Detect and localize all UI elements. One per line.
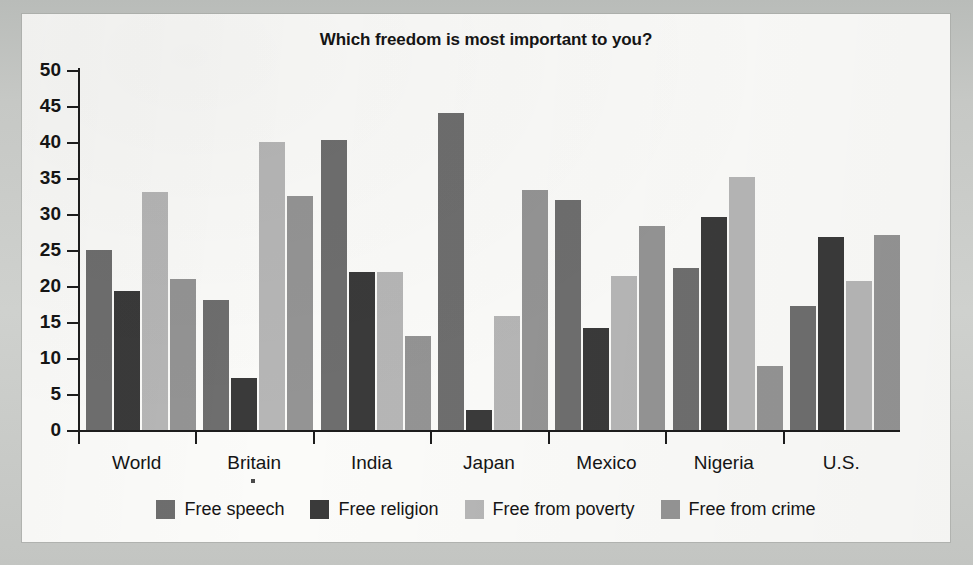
bar — [231, 378, 257, 430]
y-tick: 45 — [67, 106, 78, 108]
y-tick-label: 10 — [40, 347, 61, 369]
bar — [259, 142, 285, 430]
x-tick — [665, 431, 667, 444]
x-tick — [430, 431, 432, 444]
x-tick — [195, 431, 197, 444]
bar — [377, 272, 403, 430]
y-tick: 30 — [67, 214, 78, 216]
y-tick-label: 40 — [40, 131, 61, 153]
x-axis-label-britain: Britain — [227, 452, 281, 474]
bar — [522, 190, 548, 430]
x-axis-label-world: World — [112, 452, 161, 474]
y-tick: 10 — [67, 358, 78, 360]
x-axis-label-mexico: Mexico — [576, 452, 636, 474]
y-tick: 40 — [67, 142, 78, 144]
bar — [583, 328, 609, 430]
legend-label: Free from crime — [689, 499, 816, 520]
legend-swatch-icon — [156, 500, 175, 519]
scanned-page-background: Which freedom is most important to you? … — [0, 0, 973, 565]
x-tick — [313, 431, 315, 444]
bar-group — [438, 70, 548, 430]
y-tick-label: 5 — [50, 383, 61, 405]
bar — [874, 235, 900, 430]
scan-speck-artifact — [251, 479, 255, 483]
y-tick-label: 15 — [40, 311, 61, 333]
bar-group — [86, 70, 196, 430]
bar — [818, 237, 844, 430]
legend-label: Free religion — [338, 499, 438, 520]
bar — [673, 268, 699, 430]
bar-group — [203, 70, 313, 430]
bar — [405, 336, 431, 430]
legend-label: Free speech — [184, 499, 284, 520]
y-tick: 25 — [67, 250, 78, 252]
chart-title: Which freedom is most important to you? — [22, 30, 950, 50]
y-tick: 0 — [67, 430, 78, 432]
legend: Free speechFree religionFree from povert… — [22, 499, 950, 520]
bar-group — [673, 70, 783, 430]
y-tick: 50 — [67, 70, 78, 72]
bar-group — [321, 70, 431, 430]
bar — [701, 217, 727, 430]
x-axis-label-us: U.S. — [823, 452, 860, 474]
legend-item[interactable]: Free religion — [310, 499, 438, 520]
bar — [757, 366, 783, 430]
x-tick — [78, 431, 80, 444]
bar — [494, 316, 520, 430]
bar — [287, 196, 313, 430]
bar — [86, 250, 112, 430]
legend-item[interactable]: Free from crime — [661, 499, 816, 520]
y-tick: 5 — [67, 394, 78, 396]
legend-swatch-icon — [661, 500, 680, 519]
y-tick-label: 35 — [40, 167, 61, 189]
bar — [846, 281, 872, 430]
x-axis-label-nigeria: Nigeria — [694, 452, 754, 474]
bar-group — [790, 70, 900, 430]
bar — [114, 291, 140, 430]
bar — [466, 410, 492, 430]
x-axis-line — [78, 430, 900, 432]
bar — [555, 200, 581, 430]
legend-swatch-icon — [310, 500, 329, 519]
y-tick-label: 30 — [40, 203, 61, 225]
bar — [349, 272, 375, 430]
x-axis-label-japan: Japan — [463, 452, 515, 474]
bar — [790, 306, 816, 430]
x-tick — [548, 431, 550, 444]
bar — [203, 300, 229, 430]
y-tick: 15 — [67, 322, 78, 324]
y-tick-label: 0 — [50, 419, 61, 441]
bar-group — [555, 70, 665, 430]
bar — [729, 177, 755, 430]
y-tick-label: 45 — [40, 95, 61, 117]
bar — [438, 113, 464, 430]
x-tick — [783, 431, 785, 444]
x-axis-label-india: India — [351, 452, 392, 474]
y-tick-label: 50 — [40, 59, 61, 81]
legend-item[interactable]: Free from poverty — [465, 499, 635, 520]
legend-swatch-icon — [465, 500, 484, 519]
y-axis-line — [78, 68, 80, 432]
y-tick: 20 — [67, 286, 78, 288]
y-tick-label: 25 — [40, 239, 61, 261]
legend-label: Free from poverty — [493, 499, 635, 520]
y-tick: 35 — [67, 178, 78, 180]
bar — [639, 226, 665, 430]
chart-card: Which freedom is most important to you? … — [22, 14, 950, 542]
legend-item[interactable]: Free speech — [156, 499, 284, 520]
plot-area: 05101520253035404550 WorldBritainIndiaJa… — [78, 70, 900, 430]
bar — [611, 276, 637, 430]
y-tick-label: 20 — [40, 275, 61, 297]
bar — [142, 192, 168, 430]
bar — [170, 279, 196, 430]
bar — [321, 140, 347, 430]
